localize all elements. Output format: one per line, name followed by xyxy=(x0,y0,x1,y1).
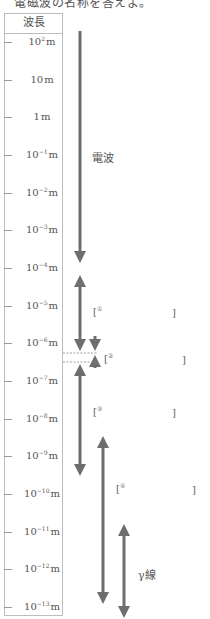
blank-1[interactable]: [① xyxy=(93,305,102,317)
blank-2-number: ② xyxy=(108,352,113,359)
blank-3[interactable]: [③ xyxy=(93,405,102,417)
blank-1-number: ① xyxy=(97,305,102,312)
blank-4-number: ④ xyxy=(120,482,125,489)
radio-wave-label: 電波 xyxy=(92,149,114,165)
blank-2-close: ] xyxy=(182,354,186,365)
blank-2[interactable]: [② xyxy=(104,352,113,364)
blank-3-close: ] xyxy=(172,407,176,418)
blank-1-close: ] xyxy=(172,307,176,318)
blank-4[interactable]: [④ xyxy=(116,482,125,494)
gamma-ray-label: γ線 xyxy=(138,566,156,582)
blank-4-close: ] xyxy=(192,484,196,495)
blank-3-number: ③ xyxy=(97,405,102,412)
arrow-layer xyxy=(0,0,210,619)
